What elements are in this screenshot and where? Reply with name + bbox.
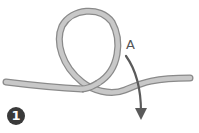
end-a-label: A xyxy=(126,37,135,52)
step-number-badge: 1 xyxy=(7,107,25,125)
knot-diagram xyxy=(0,0,199,133)
rope xyxy=(6,11,190,92)
